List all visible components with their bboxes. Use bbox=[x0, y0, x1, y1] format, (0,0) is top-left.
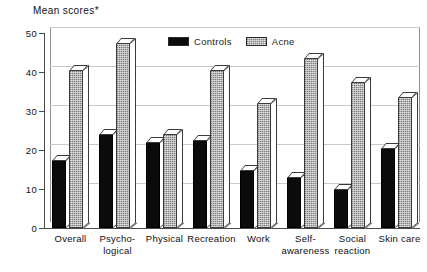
bar-front-face bbox=[69, 70, 83, 228]
bar-front-face bbox=[381, 148, 395, 228]
bar-acne bbox=[163, 134, 177, 228]
plot-area: 01020304050 bbox=[44, 33, 420, 228]
bar-side-face bbox=[130, 38, 136, 228]
bar-controls bbox=[146, 142, 160, 228]
bar-controls bbox=[193, 140, 207, 228]
bar-front-face bbox=[210, 70, 224, 228]
x-axis-label: Self-awareness bbox=[281, 233, 329, 256]
bar-front-face bbox=[240, 170, 254, 229]
x-axis-label: Recreation bbox=[187, 233, 235, 245]
legend-item-acne: Acne bbox=[246, 36, 295, 47]
bar-controls bbox=[334, 189, 348, 228]
y-axis-tick-mark bbox=[39, 189, 44, 190]
x-axis-label-line2: logical bbox=[99, 245, 135, 257]
bar-side-face bbox=[83, 65, 89, 228]
bar-side-face bbox=[365, 77, 371, 228]
bar-controls bbox=[99, 134, 113, 228]
x-axis-label: Overall bbox=[55, 233, 87, 245]
bar-side-face bbox=[318, 53, 324, 228]
legend-swatch-controls-icon bbox=[168, 37, 189, 46]
x-axis-label-line1: Physical bbox=[146, 233, 183, 245]
y-axis-tick-mark bbox=[39, 228, 44, 229]
x-axis-label-line1: Recreation bbox=[187, 233, 235, 245]
bar-acne bbox=[351, 82, 365, 228]
bar-acne bbox=[116, 43, 130, 228]
x-axis-label: Psycho-logical bbox=[99, 233, 135, 256]
bar-front-face bbox=[99, 134, 113, 228]
y-axis-tick-mark bbox=[39, 72, 44, 73]
bar-acne bbox=[210, 70, 224, 228]
bar-front-face bbox=[52, 160, 66, 228]
bar-chart: Mean scores* 01020304050 Controls Acne O… bbox=[0, 0, 427, 272]
bar-front-face bbox=[193, 140, 207, 228]
x-axis-label-line1: Self- bbox=[281, 233, 329, 245]
bar-front-face bbox=[163, 134, 177, 228]
y-axis-title: Mean scores* bbox=[33, 5, 99, 16]
bar-acne bbox=[69, 70, 83, 228]
x-axis-label-line1: Psycho- bbox=[99, 233, 135, 245]
y-axis-line bbox=[44, 33, 45, 228]
x-axis-label: Work bbox=[247, 233, 270, 245]
bar-front-face bbox=[334, 189, 348, 228]
bar-front-face bbox=[351, 82, 365, 228]
x-axis-label-line1: Overall bbox=[55, 233, 87, 245]
bar-controls bbox=[240, 170, 254, 229]
x-axis-line bbox=[44, 228, 420, 229]
bar-front-face bbox=[287, 177, 301, 228]
x-axis-labels: OverallPsycho-logicalPhysicalRecreationW… bbox=[44, 233, 420, 271]
bar-front-face bbox=[304, 58, 318, 228]
legend-swatch-acne-icon bbox=[246, 37, 267, 46]
bar-front-face bbox=[146, 142, 160, 228]
bar-front-face bbox=[398, 97, 412, 228]
bar-controls bbox=[52, 160, 66, 228]
bar-acne bbox=[304, 58, 318, 228]
x-axis-label-line2: awareness bbox=[281, 245, 329, 257]
y-axis-tick-mark bbox=[39, 33, 44, 34]
bar-side-face bbox=[412, 92, 418, 228]
x-axis-label-line1: Social bbox=[335, 233, 371, 245]
x-axis-label-line2: reaction bbox=[335, 245, 371, 257]
gridline bbox=[50, 27, 420, 28]
bar-side-face bbox=[177, 129, 183, 228]
x-axis-label-line1: Work bbox=[247, 233, 270, 245]
bar-front-face bbox=[257, 103, 271, 228]
x-axis-label: Socialreaction bbox=[335, 233, 371, 256]
bar-side-face bbox=[271, 98, 277, 228]
bar-side-face bbox=[224, 65, 230, 228]
x-axis-label-line1: Skin care bbox=[379, 233, 421, 245]
x-axis-label: Skin care bbox=[379, 233, 421, 245]
y-axis-tick-mark bbox=[39, 111, 44, 112]
y-axis-tick-mark bbox=[39, 150, 44, 151]
bar-acne bbox=[398, 97, 412, 228]
legend-item-controls: Controls bbox=[168, 36, 232, 47]
bar-controls bbox=[381, 148, 395, 228]
legend-label-acne: Acne bbox=[272, 36, 295, 47]
bar-controls bbox=[287, 177, 301, 228]
gridline bbox=[50, 66, 420, 67]
legend-label-controls: Controls bbox=[194, 36, 232, 47]
x-axis-label: Physical bbox=[146, 233, 183, 245]
bar-acne bbox=[257, 103, 271, 228]
bar-front-face bbox=[116, 43, 130, 228]
chart-legend: Controls Acne bbox=[168, 36, 295, 47]
